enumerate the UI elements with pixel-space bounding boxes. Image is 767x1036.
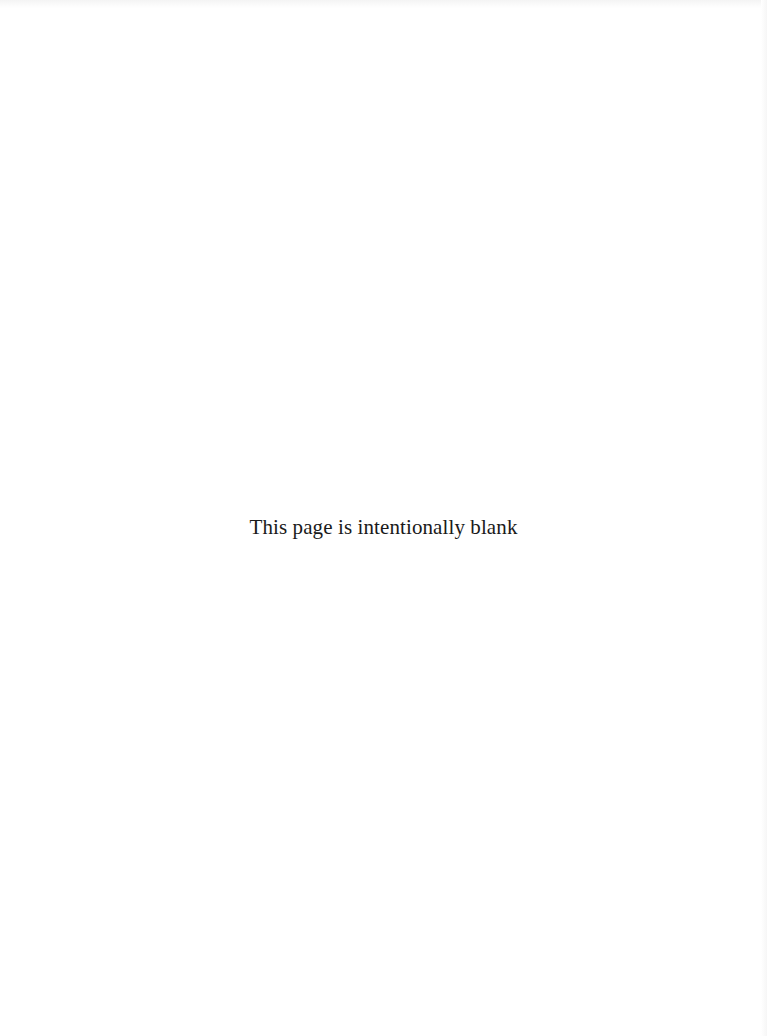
blank-page-notice: This page is intentionally blank	[0, 515, 767, 540]
document-page: This page is intentionally blank	[0, 0, 767, 1036]
scan-top-edge	[0, 0, 767, 8]
